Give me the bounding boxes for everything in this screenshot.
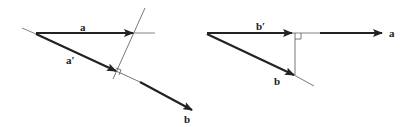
right-panel: b′ b a <box>207 20 395 87</box>
vector-b <box>207 34 294 75</box>
label-b: b <box>274 75 280 87</box>
label-a: a <box>80 21 86 33</box>
guide-line-b <box>294 75 314 86</box>
label-b-prime: b′ <box>256 20 265 32</box>
label-a: a <box>389 27 395 39</box>
vector-b <box>140 82 192 110</box>
right-angle-mark <box>295 33 301 39</box>
left-panel: a a′ b <box>22 8 192 125</box>
vector-a-prime <box>36 34 116 71</box>
projection-diagram: a a′ b b′ b a <box>0 0 409 127</box>
label-a-prime: a′ <box>66 54 75 66</box>
label-b: b <box>184 113 190 125</box>
guide-line-b-tail <box>22 28 36 34</box>
